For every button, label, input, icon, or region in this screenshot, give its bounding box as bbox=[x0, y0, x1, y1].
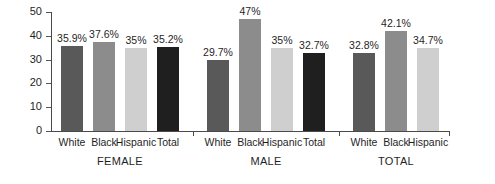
x-axis-line bbox=[51, 131, 449, 132]
bar-value-label: 47% bbox=[229, 6, 271, 17]
y-tick-label: 30 bbox=[20, 54, 42, 65]
y-axis-line bbox=[51, 12, 52, 132]
bar bbox=[61, 46, 83, 131]
x-category-label: Total bbox=[144, 136, 192, 148]
bar bbox=[207, 60, 229, 131]
bar bbox=[157, 47, 179, 131]
bar-value-label: 42.1% bbox=[375, 18, 417, 29]
bar-value-label: 32.8% bbox=[343, 40, 385, 51]
x-category-label: Hispanic bbox=[404, 136, 452, 148]
y-tick-label: 10 bbox=[20, 101, 42, 112]
bar-value-label: 29.7% bbox=[197, 47, 239, 58]
y-tick-label: 40 bbox=[20, 30, 42, 41]
bar bbox=[125, 48, 147, 131]
y-axis-title: Percent bbox=[0, 0, 14, 28]
bar-value-label: 35.2% bbox=[147, 34, 189, 45]
y-tick-label: 20 bbox=[20, 77, 42, 88]
bar bbox=[93, 42, 115, 131]
bar bbox=[417, 48, 439, 131]
bar-value-label: 34.7% bbox=[407, 35, 449, 46]
bar bbox=[353, 53, 375, 131]
y-tick-label: 50 bbox=[20, 6, 42, 17]
y-tick-label: 0 bbox=[20, 125, 42, 136]
x-group-label: TOTAL bbox=[323, 155, 469, 168]
bar-value-label: 32.7% bbox=[293, 40, 335, 51]
x-category-label: Total bbox=[290, 136, 338, 148]
bar-chart: Percent 01020304050 35.9%White37.6%Black… bbox=[0, 0, 495, 184]
bar bbox=[271, 48, 293, 131]
bar bbox=[303, 53, 325, 131]
bar bbox=[239, 19, 261, 131]
bar bbox=[385, 31, 407, 131]
x-axis-end-tick bbox=[449, 131, 450, 136]
